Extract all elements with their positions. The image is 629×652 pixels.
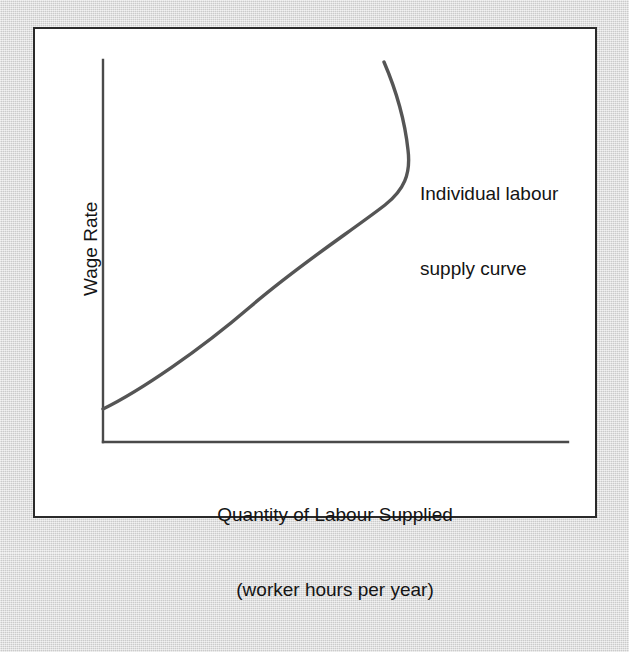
- y-axis-label: Wage Rate: [78, 202, 103, 296]
- curve-annotation-line-1: Individual labour: [420, 181, 590, 206]
- individual-labour-supply-curve: [103, 62, 409, 409]
- curve-annotation: Individual labour supply curve: [420, 131, 590, 331]
- curve-annotation-line-2: supply curve: [420, 256, 590, 281]
- x-axis-label-line-2: (worker hours per year): [165, 577, 505, 602]
- x-axis-label: Quantity of Labour Supplied (worker hour…: [165, 452, 505, 652]
- x-axis-label-line-1: Quantity of Labour Supplied: [165, 502, 505, 527]
